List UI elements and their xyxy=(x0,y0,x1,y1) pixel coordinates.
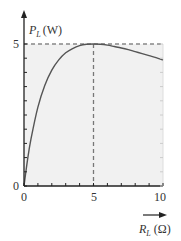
x-axis-arrow-icon xyxy=(159,212,167,218)
x-tick-label-0: 0 xyxy=(21,190,27,204)
y-tick-label-0: 0 xyxy=(13,179,19,193)
x-tick-label-5: 5 xyxy=(91,190,97,204)
power-curve-chart: 0 5 10 0 5 PL(W) RL(Ω) xyxy=(0,0,181,241)
x-axis-label: RL(Ω) xyxy=(138,222,171,238)
y-axis-arrow-icon xyxy=(21,10,27,18)
y-axis-label: PL(W) xyxy=(28,23,62,39)
y-tick-label-5: 5 xyxy=(13,37,19,51)
x-tick-label-10: 10 xyxy=(154,190,166,204)
